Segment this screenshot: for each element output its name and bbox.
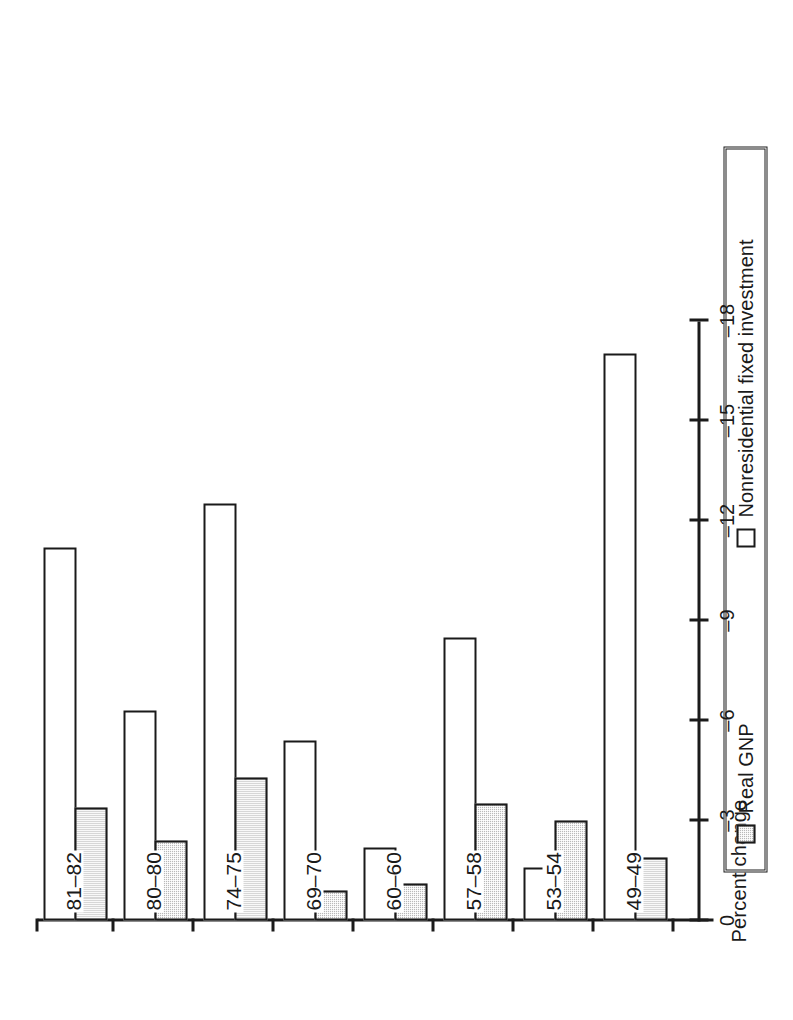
category-tick: [591, 918, 594, 931]
legend-swatch-open-icon: [736, 528, 755, 547]
value-tick: [689, 918, 708, 921]
chart-plot-wrapper: Percent change 0–3–6–9–12–15–18 81–8280–…: [0, 0, 793, 1020]
value-tick: [689, 518, 708, 521]
category-tick: [431, 918, 434, 931]
legend-item-real-gnp: Real GNP: [734, 723, 757, 843]
bar-nonresidential-fixed-investment: [603, 353, 636, 920]
category-tick: [511, 918, 514, 931]
value-tick: [689, 318, 708, 321]
value-tick-label: 0: [715, 914, 738, 925]
category-tick: [111, 918, 114, 931]
category-label: 74–75: [222, 850, 243, 912]
chart-legend: Real GNP Nonresidential fixed investment: [723, 146, 767, 872]
value-tick: [689, 418, 708, 421]
category-label: 80–80: [142, 850, 163, 912]
legend-swatch-shaded-icon: [736, 824, 755, 843]
plot-area: 0–3–6–9–12–15–18 81–8280–8074–7569–7060–…: [55, 220, 695, 920]
legend-item-nonresidential-fixed-investment: Nonresidential fixed investment: [734, 239, 757, 547]
category-label: 60–60: [382, 850, 403, 912]
category-label: 57–58: [462, 850, 483, 912]
category-tick: [35, 918, 38, 931]
legend-label-real-gnp: Real GNP: [734, 723, 757, 813]
category-label: 81–82: [62, 850, 83, 912]
chart-figure: Percent change 0–3–6–9–12–15–18 81–8280–…: [0, 0, 793, 1020]
category-label: 49–49: [622, 850, 643, 912]
value-tick: [689, 818, 708, 821]
value-tick: [689, 718, 708, 721]
value-tick: [689, 618, 708, 621]
category-label: 69–70: [302, 850, 323, 912]
legend-label-nonresidential-fixed-investment: Nonresidential fixed investment: [734, 239, 757, 517]
category-label: 53–54: [542, 850, 563, 912]
category-tick: [191, 918, 194, 931]
category-tick: [271, 918, 274, 931]
category-tick: [351, 918, 354, 931]
category-tick: [671, 918, 674, 931]
